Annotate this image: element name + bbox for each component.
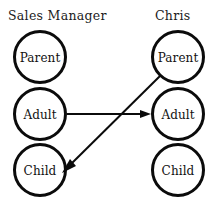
- column-title-right: Chris: [155, 8, 191, 23]
- ego-state-group-right-adult[interactable]: Adult: [153, 89, 204, 140]
- ego-state-label-right-adult: Adult: [160, 108, 194, 122]
- ego-state-group-left-child[interactable]: Child: [15, 145, 66, 196]
- transactional-analysis-diagram: Sales Manager Chris Parent Adult Child P…: [0, 0, 215, 207]
- column-title-left: Sales Manager: [8, 8, 107, 23]
- transaction-arrow-parent-to-child[interactable]: [62, 76, 160, 173]
- ego-state-label-left-parent: Parent: [20, 51, 61, 65]
- arrow-head-adult-to-adult: [140, 110, 151, 118]
- ego-state-label-left-child: Child: [24, 164, 57, 178]
- ego-state-group-left-parent[interactable]: Parent: [15, 32, 66, 83]
- ego-state-label-left-adult: Adult: [22, 108, 56, 122]
- ego-state-label-right-child: Child: [162, 164, 195, 178]
- transaction-arrow-adult-to-adult[interactable]: [67, 110, 151, 118]
- transaction-line-parent-to-child: [69, 76, 160, 166]
- ego-state-label-right-parent: Parent: [158, 51, 199, 65]
- ego-state-group-right-parent[interactable]: Parent: [153, 32, 204, 83]
- diagram-canvas-svg: Sales Manager Chris Parent Adult Child P…: [0, 0, 215, 207]
- ego-state-group-right-child[interactable]: Child: [153, 145, 204, 196]
- ego-state-group-left-adult[interactable]: Adult: [15, 89, 66, 140]
